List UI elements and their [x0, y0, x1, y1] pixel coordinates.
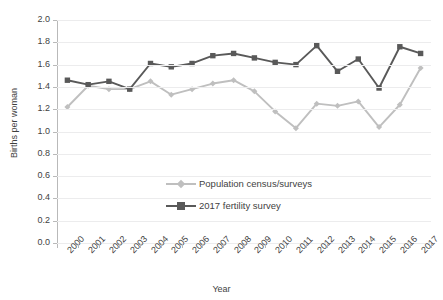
legend-label-2017-fertility-survey: 2017 fertility survey	[199, 200, 281, 211]
x-axis-tick-label: 2005	[169, 234, 190, 255]
y-axis-tick-mark	[53, 109, 57, 110]
x-axis-tick-label: 2002	[107, 234, 128, 255]
x-axis-tick-label: 2000	[65, 234, 86, 255]
x-axis-tick-mark	[348, 244, 349, 248]
diamond-marker-icon	[177, 179, 185, 187]
x-axis-tick-mark	[182, 244, 183, 248]
x-axis-tick-mark	[265, 244, 266, 248]
x-axis-tick-mark	[306, 244, 307, 248]
x-axis-tick-mark	[161, 244, 162, 248]
x-axis-tick-mark	[202, 244, 203, 248]
x-axis-tick-label: 2011	[294, 234, 315, 255]
x-axis-tick-mark	[431, 244, 432, 248]
y-axis-tick-mark	[53, 132, 57, 133]
x-axis-tick-label: 2006	[190, 234, 211, 255]
chart-legend: Population census/surveys 2017 fertility…	[166, 172, 312, 216]
y-axis-tick-mark	[53, 65, 57, 66]
legend-item-2017-fertility-survey[interactable]: 2017 fertility survey	[166, 194, 312, 216]
x-axis-tick-label: 2007	[211, 234, 232, 255]
legend-swatch-2017-fertility-survey	[166, 200, 196, 211]
x-axis-tick-label: 2003	[128, 234, 149, 255]
x-axis-tick-label: 2013	[336, 234, 357, 255]
x-axis-tick-label: 2008	[232, 234, 253, 255]
y-axis-tick-mark	[53, 154, 57, 155]
square-marker-icon	[177, 202, 185, 210]
y-axis-tick-mark	[53, 221, 57, 222]
legend-swatch-population-census-surveys	[166, 178, 196, 189]
x-axis-tick-mark	[99, 244, 100, 248]
x-axis-tick-mark	[244, 244, 245, 248]
x-axis-tick-mark	[119, 244, 120, 248]
y-axis-tick-mark	[53, 198, 57, 199]
x-axis-tick-mark	[410, 244, 411, 248]
x-axis-tick-label: 2010	[273, 234, 294, 255]
x-axis-tick-mark	[57, 244, 58, 248]
y-axis-tick-mark	[53, 20, 57, 21]
y-axis-tick-mark	[53, 176, 57, 177]
y-axis-tick-mark	[53, 87, 57, 88]
x-axis-tick-label: 2009	[252, 234, 273, 255]
x-axis-tick-mark	[140, 244, 141, 248]
x-axis-tick-label: 2015	[377, 234, 398, 255]
y-axis-tick-mark	[53, 42, 57, 43]
x-axis-tick-mark	[286, 244, 287, 248]
x-axis-tick-label: 2016	[398, 234, 419, 255]
x-axis-tick-label: 2012	[315, 234, 336, 255]
legend-item-population-census-surveys[interactable]: Population census/surveys	[166, 172, 312, 194]
x-axis-tick-label: 2014	[356, 234, 377, 255]
x-axis-tick-mark	[389, 244, 390, 248]
x-axis-title: Year	[0, 284, 443, 294]
legend-label-population-census-surveys: Population census/surveys	[199, 178, 312, 189]
x-axis-tick-label: 2017	[419, 234, 440, 255]
x-axis-tick-mark	[369, 244, 370, 248]
x-axis-tick-label: 2004	[149, 234, 170, 255]
x-axis-tick-mark	[78, 244, 79, 248]
x-axis-tick-mark	[223, 244, 224, 248]
x-axis-tick-label: 2001	[86, 234, 107, 255]
chart-container: 2.01.81.61.41.21.00.80.60.40.20.0 Births…	[0, 0, 443, 300]
x-axis-tick-labels: 2000200120022003200420052006200720082009…	[0, 0, 443, 300]
x-axis-tick-mark	[327, 244, 328, 248]
